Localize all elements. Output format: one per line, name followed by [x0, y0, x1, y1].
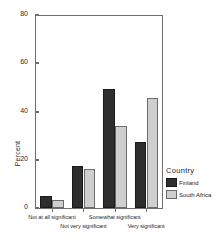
- legend-label-south-africa: South Africa: [179, 192, 211, 198]
- x-tick-label: Not very significant: [60, 223, 106, 229]
- bar-not-very-significant-finland: [72, 166, 84, 208]
- bar-not-at-all-significant-south-africa: [52, 200, 64, 208]
- bar-very-significant-finland: [135, 142, 147, 208]
- legend-title: Country: [166, 166, 223, 175]
- y-axis-label: Percent: [14, 124, 21, 184]
- x-tick-label: Very significant: [128, 223, 165, 229]
- x-tick-mark: [115, 209, 116, 212]
- bar-very-significant-south-africa: [147, 98, 159, 208]
- y-tick-label: 80: [20, 10, 28, 17]
- legend-item-south-africa[interactable]: South Africa: [166, 190, 223, 199]
- legend-item-finland[interactable]: Finland: [166, 178, 223, 187]
- legend-swatch-finland: [166, 178, 177, 187]
- bar-somewhat-significant-south-africa: [115, 126, 127, 208]
- y-tick-label: 20: [20, 155, 28, 162]
- y-tick-label: 0: [24, 203, 28, 210]
- x-tick-label: Somewhat significant: [89, 214, 141, 220]
- bar-somewhat-significant-finland: [103, 89, 115, 208]
- x-tick-mark: [146, 209, 147, 212]
- x-tick-mark: [83, 209, 84, 212]
- legend-label-finland: Finland: [179, 180, 199, 186]
- x-tick-label: Not at all significant: [28, 214, 75, 220]
- x-tick-mark: [52, 209, 53, 212]
- bars-layer: [36, 15, 162, 208]
- x-axis-line: [35, 208, 163, 209]
- y-tick-label: 60: [20, 58, 28, 65]
- y-tick-label: 40: [20, 107, 28, 114]
- bar-not-at-all-significant-finland: [40, 196, 52, 208]
- bar-not-very-significant-south-africa: [84, 169, 96, 208]
- plot-frame-right: [162, 15, 163, 209]
- bar-chart: Percent 020406080 Not at all significant…: [0, 0, 223, 243]
- legend: Country Finland South Africa: [166, 166, 223, 202]
- legend-swatch-south-africa: [166, 190, 177, 199]
